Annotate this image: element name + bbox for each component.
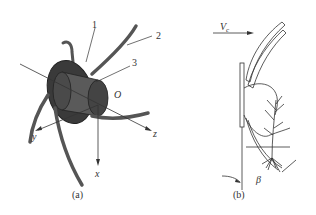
label-3: 3	[132, 57, 137, 68]
velocity-arrow-head-icon	[247, 31, 254, 35]
leader-2	[127, 36, 152, 45]
leader-3	[96, 66, 130, 82]
label-2: 2	[156, 30, 161, 41]
caption-b: (b)	[233, 189, 245, 201]
plant-stem	[272, 100, 276, 158]
y-axis-label: y	[31, 131, 37, 142]
hub-back	[53, 72, 71, 110]
z-axis-label: z	[152, 128, 157, 139]
velocity-label: Vc	[220, 21, 230, 34]
tine-curve-2	[248, 30, 286, 88]
z-arrow-icon	[145, 126, 152, 131]
plate	[240, 63, 244, 127]
panel-b	[213, 22, 296, 190]
panel-a: 1 2 3 O y z x (a)	[20, 19, 161, 201]
x-arrow-icon	[96, 159, 100, 166]
label-1: 1	[92, 19, 97, 30]
origin-label: O	[114, 89, 121, 100]
caption-a: (a)	[72, 189, 83, 201]
plant-leaves	[264, 96, 284, 135]
figure-canvas: 1 2 3 O y z x (a) Vc β (b)	[0, 0, 316, 215]
tine-top	[63, 42, 73, 62]
angle-label: β	[255, 174, 261, 185]
tine-curve-5	[246, 118, 278, 170]
x-axis-label: x	[94, 168, 100, 179]
leader-1	[86, 28, 95, 62]
angle-line	[282, 160, 296, 172]
tine-2	[92, 26, 136, 74]
angle-arrow-head-icon	[235, 179, 241, 183]
tine-curve-6	[248, 120, 282, 168]
tine-curve-3	[244, 84, 277, 115]
